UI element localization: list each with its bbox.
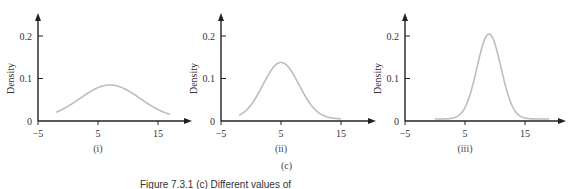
x-tick-label: −5: [216, 128, 227, 139]
density-curve: [435, 34, 549, 119]
panel-group-label: (c): [0, 160, 573, 171]
x-axis-arrow-icon: [558, 118, 566, 124]
y-axis-label: Density: [372, 63, 383, 94]
chart-panel-2: 00.10.2−5515Density(ii): [188, 13, 376, 155]
x-tick-label: 5: [96, 128, 101, 139]
x-tick-label: 5: [279, 128, 284, 139]
y-axis-label: Density: [5, 63, 16, 94]
panel-label: (i): [93, 143, 102, 155]
x-tick-label: −5: [33, 128, 44, 139]
y-tick-label: 0: [27, 116, 32, 127]
panel-label: (ii): [275, 143, 287, 155]
x-tick-label: 5: [463, 128, 468, 139]
x-tick-label: 15: [520, 128, 530, 139]
panel-label: (iii): [458, 143, 473, 155]
y-tick-label: 0.1: [203, 73, 216, 84]
x-tick-label: −5: [400, 128, 411, 139]
chart-panel-3: 00.10.2−5515Density(iii): [372, 13, 566, 155]
x-axis-arrow-icon: [368, 118, 376, 124]
y-axis-arrow-icon: [218, 13, 224, 21]
x-tick-label: 15: [336, 128, 346, 139]
y-tick-label: 0: [394, 116, 399, 127]
x-tick-label: 15: [153, 128, 163, 139]
y-axis-arrow-icon: [35, 13, 41, 21]
y-tick-label: 0.2: [203, 31, 216, 42]
y-tick-label: 0.2: [387, 31, 400, 42]
x-axis-arrow-icon: [184, 118, 192, 124]
y-tick-label: 0.1: [387, 73, 400, 84]
density-curve: [56, 85, 170, 114]
density-curve: [239, 62, 341, 118]
y-tick-label: 0: [210, 116, 215, 127]
y-axis-arrow-icon: [402, 13, 408, 21]
chart-panel-1: 00.10.2−5515Density(i): [5, 13, 192, 155]
y-tick-label: 0.1: [20, 73, 33, 84]
y-tick-label: 0.2: [20, 31, 33, 42]
figure-caption: Figure 7.3.1 (c) Different values of: [140, 179, 291, 189]
y-axis-label: Density: [188, 63, 199, 94]
